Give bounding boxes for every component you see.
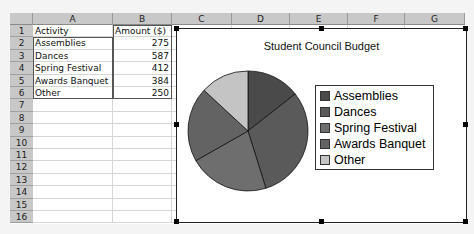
cell-a16[interactable] bbox=[33, 211, 113, 223]
column-header-b[interactable]: B bbox=[113, 13, 172, 25]
cell-b14[interactable] bbox=[113, 186, 172, 198]
legend-label: Dances bbox=[334, 105, 376, 119]
cell-a1[interactable]: Activity bbox=[33, 25, 113, 37]
cell-b12[interactable] bbox=[113, 161, 172, 173]
selected-range-b1-b6 bbox=[113, 25, 172, 99]
legend-item-assemblies: Assemblies bbox=[320, 88, 429, 104]
row-header-9[interactable]: 9 bbox=[10, 124, 33, 136]
row-header-2[interactable]: 2 bbox=[10, 37, 33, 49]
cell-b9[interactable] bbox=[113, 124, 172, 136]
legend-label: Spring Festival bbox=[334, 121, 417, 135]
row-header-16[interactable]: 16 bbox=[10, 211, 33, 223]
column-header-e[interactable]: E bbox=[290, 13, 348, 25]
column-header-g[interactable]: G bbox=[405, 13, 465, 25]
row-header-12[interactable]: 12 bbox=[10, 161, 33, 173]
legend-label: Assemblies bbox=[334, 89, 398, 103]
row-header-4[interactable]: 4 bbox=[10, 62, 33, 74]
legend-swatch bbox=[320, 139, 330, 149]
column-header-c[interactable]: C bbox=[172, 13, 232, 25]
legend-label: Awards Banquet bbox=[334, 137, 426, 151]
pie-plot bbox=[183, 66, 313, 196]
row-header-10[interactable]: 10 bbox=[10, 137, 33, 149]
legend-item-awards-banquet: Awards Banquet bbox=[320, 136, 429, 152]
legend-item-spring-festival: Spring Festival bbox=[320, 120, 429, 136]
resize-handle[interactable] bbox=[319, 219, 324, 224]
legend-item-dances: Dances bbox=[320, 104, 429, 120]
row-header-13[interactable]: 13 bbox=[10, 174, 33, 186]
resize-handle[interactable] bbox=[319, 26, 324, 31]
column-header-d[interactable]: D bbox=[232, 13, 290, 25]
row-header-14[interactable]: 14 bbox=[10, 186, 33, 198]
resize-handle[interactable] bbox=[463, 122, 468, 127]
selected-range-a2-a6 bbox=[33, 37, 113, 99]
cell-b16[interactable] bbox=[113, 211, 172, 223]
resize-handle[interactable] bbox=[174, 122, 179, 127]
legend-swatch bbox=[320, 155, 330, 165]
cell-a15[interactable] bbox=[33, 199, 113, 211]
cell-a7[interactable] bbox=[33, 99, 113, 111]
cell-b7[interactable] bbox=[113, 99, 172, 111]
column-header-f[interactable]: F bbox=[348, 13, 405, 25]
cell-b15[interactable] bbox=[113, 199, 172, 211]
cell-a8[interactable] bbox=[33, 112, 113, 124]
pie-chart[interactable]: Student Council Budget AssembliesDancesS… bbox=[176, 28, 467, 223]
cell-a14[interactable] bbox=[33, 186, 113, 198]
column-header-a[interactable]: A bbox=[33, 13, 113, 25]
row-header-11[interactable]: 11 bbox=[10, 149, 33, 161]
row-header-3[interactable]: 3 bbox=[10, 50, 33, 62]
cell-a9[interactable] bbox=[33, 124, 113, 136]
resize-handle[interactable] bbox=[174, 219, 179, 224]
legend-swatch bbox=[320, 91, 330, 101]
chart-title: Student Council Budget bbox=[177, 40, 466, 52]
resize-handle[interactable] bbox=[174, 26, 179, 31]
cell-b11[interactable] bbox=[113, 149, 172, 161]
cell-b10[interactable] bbox=[113, 137, 172, 149]
cell-a11[interactable] bbox=[33, 149, 113, 161]
resize-handle[interactable] bbox=[463, 26, 468, 31]
row-header-5[interactable]: 5 bbox=[10, 75, 33, 87]
legend-swatch bbox=[320, 123, 330, 133]
legend-item-other: Other bbox=[320, 152, 429, 168]
row-header-1[interactable]: 1 bbox=[10, 25, 33, 37]
cell-b8[interactable] bbox=[113, 112, 172, 124]
row-header-7[interactable]: 7 bbox=[10, 99, 33, 111]
legend-swatch bbox=[320, 107, 330, 117]
resize-handle[interactable] bbox=[463, 219, 468, 224]
cell-a12[interactable] bbox=[33, 161, 113, 173]
cell-a13[interactable] bbox=[33, 174, 113, 186]
row-header-15[interactable]: 15 bbox=[10, 199, 33, 211]
legend-label: Other bbox=[334, 153, 365, 167]
select-all-corner[interactable] bbox=[10, 13, 33, 25]
row-header-8[interactable]: 8 bbox=[10, 112, 33, 124]
cell-b13[interactable] bbox=[113, 174, 172, 186]
cell-a10[interactable] bbox=[33, 137, 113, 149]
row-header-6[interactable]: 6 bbox=[10, 87, 33, 99]
chart-legend: AssembliesDancesSpring FestivalAwards Ba… bbox=[315, 85, 434, 170]
